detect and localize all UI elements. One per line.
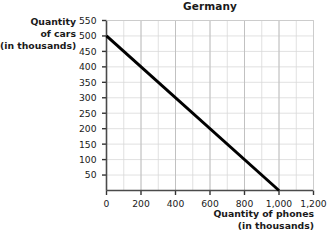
grid-major: [107, 21, 314, 191]
plot-area: [0, 0, 329, 236]
chart-figure: Germany Quantity of cars (in thousands) …: [0, 0, 329, 236]
axis-tick-marks: [102, 21, 314, 196]
